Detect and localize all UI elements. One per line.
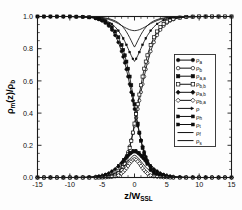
y-tick-label: 0.4 [23, 109, 33, 118]
marker-square-open [149, 43, 152, 46]
marker-small-square [117, 30, 119, 32]
marker-square-filled [131, 93, 134, 96]
marker-square-filled [130, 84, 133, 87]
marker-small-square [156, 23, 158, 25]
marker-circle-open [191, 66, 195, 70]
y-tick-label: 0.8 [23, 44, 33, 53]
marker-square-filled [120, 43, 123, 46]
marker-small-square [122, 38, 124, 40]
series-rho_f [38, 17, 232, 48]
marker-square-open [165, 20, 168, 23]
marker-square-open [133, 122, 136, 125]
marker-small-square [105, 173, 107, 175]
marker-small-square [150, 164, 152, 166]
density-profile-chart: -15-10-50510150.00.20.40.60.81.0 ρaρbρa,… [0, 0, 242, 210]
marker-square-filled [139, 139, 142, 142]
marker-square-open [139, 84, 142, 87]
marker-square-open [136, 103, 139, 106]
marker-circle-filled [176, 58, 180, 62]
marker-small-square [156, 170, 158, 172]
marker-square-open [143, 67, 146, 70]
marker-small-square [169, 17, 171, 19]
marker-small-square [177, 123, 180, 126]
marker-circle-filled [117, 41, 120, 44]
figure-container: -15-10-50510150.00.20.40.60.81.0 ρaρbρa,… [0, 0, 242, 210]
marker-square-filled [128, 75, 131, 78]
marker-small-square [135, 58, 137, 60]
marker-small-square [132, 149, 134, 151]
marker-square-filled [123, 54, 126, 57]
marker-small-square [135, 149, 137, 151]
marker-circle-open [149, 50, 152, 53]
marker-square-filled [126, 67, 129, 70]
marker-square-filled [176, 74, 180, 78]
marker-square-filled [114, 30, 117, 33]
legend-label: ρ [196, 105, 200, 112]
y-tick-label: 0.6 [23, 77, 33, 86]
marker-square-filled [125, 60, 128, 63]
marker-square-open [176, 83, 180, 87]
marker-small-square [105, 19, 107, 21]
marker-square-open [146, 54, 149, 57]
marker-circle-open [176, 66, 180, 70]
marker-square-open [138, 93, 141, 96]
x-tick-label: -5 [99, 180, 105, 189]
marker-square-open [159, 26, 162, 29]
marker-square-open [128, 146, 131, 149]
marker-small-square [132, 58, 134, 60]
series-line [38, 150, 232, 178]
marker-small-square [177, 115, 180, 118]
x-tick-label: 0 [133, 180, 137, 189]
marker-small-square [111, 23, 113, 25]
marker-small-square [145, 159, 147, 161]
y-axis-title: ρm(z)/ρb [5, 80, 16, 114]
marker-small-square [117, 164, 119, 166]
marker-square-filled [138, 131, 141, 134]
marker-square-open [141, 75, 144, 78]
marker-small-square [142, 155, 144, 157]
y-tick-label: 0.2 [23, 141, 33, 150]
marker-circle-filled [191, 58, 195, 62]
marker-square-open [131, 131, 134, 134]
marker-square-open [191, 83, 195, 87]
marker-square-filled [117, 36, 120, 39]
x-axis-title: z/WSSL [124, 191, 152, 202]
x-tick-label: -15 [32, 180, 42, 189]
marker-circle-open [152, 41, 155, 44]
x-tick-label: -10 [65, 180, 75, 189]
x-tick-label: 10 [195, 180, 203, 189]
x-tick-label: 15 [228, 180, 236, 189]
marker-square-filled [110, 26, 113, 29]
marker-small-square [191, 115, 194, 118]
marker-square-open [152, 36, 155, 39]
marker-small-square [122, 159, 124, 161]
marker-small-square [126, 155, 128, 157]
y-tick-label: 1.0 [23, 12, 33, 21]
marker-square-filled [136, 122, 139, 125]
marker-square-open [135, 113, 138, 116]
marker-small-square [129, 151, 131, 153]
marker-square-filled [141, 146, 144, 149]
marker-small-square [191, 123, 194, 126]
marker-square-filled [133, 103, 136, 106]
marker-small-square [139, 51, 141, 53]
marker-square-open [156, 30, 159, 33]
marker-square-open [130, 139, 133, 142]
marker-small-square [111, 170, 113, 172]
marker-square-filled [122, 48, 125, 51]
marker-square-open [144, 60, 147, 63]
legend: ρaρbρa,aρb,bρa,bρb,aρρhρtρfρs [175, 55, 216, 147]
marker-small-square [163, 19, 165, 21]
marker-small-square [139, 151, 141, 153]
marker-small-square [129, 51, 131, 53]
x-tick-label: 5 [165, 180, 169, 189]
marker-small-square [145, 38, 147, 40]
marker-small-square [142, 44, 144, 46]
marker-small-square [150, 30, 152, 32]
series-line [38, 17, 232, 48]
marker-square-filled [191, 74, 195, 78]
marker-small-square [126, 44, 128, 46]
marker-small-square [98, 17, 100, 19]
marker-square-open [162, 22, 165, 25]
y-tick-label: 0.0 [23, 173, 33, 182]
